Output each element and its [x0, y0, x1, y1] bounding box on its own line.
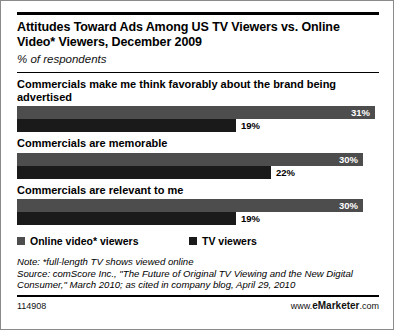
bar-value-label: 19% [236, 213, 260, 224]
legend-swatch-icon [17, 237, 25, 245]
legend-item-tv-viewers: TV viewers [189, 235, 257, 247]
bar-group-bars: 30% 19% [17, 199, 379, 225]
header-bottom-rule [17, 72, 379, 73]
page-title: Attitudes Toward Ads Among US TV Viewers… [17, 20, 379, 50]
bar-value-label: 30% [339, 154, 363, 165]
legend-swatch-icon [189, 237, 197, 245]
brand-prefix: www. [291, 301, 313, 311]
bar-group-label: Commercials make me think favorably abou… [17, 78, 379, 103]
bar-group-label: Commercials are memorable [17, 137, 379, 150]
bar-row: 19% [17, 212, 379, 225]
footer-rule [17, 295, 379, 297]
chart-subtitle: % of respondents [17, 52, 379, 66]
chart-source: Source: comScore Inc., "The Future of Or… [17, 268, 379, 291]
chart-legend: Online video* viewers TV viewers [17, 235, 379, 247]
bar-group-bars: 30% 22% [17, 153, 379, 179]
bar-row: 22% [17, 166, 379, 179]
emarketer-brand: www.eMarketer.com [291, 300, 379, 311]
bar-row: 19% [17, 119, 379, 132]
chart-id: 114908 [17, 301, 46, 311]
bar-tv-viewers [17, 212, 236, 225]
bar-value-label: 31% [351, 107, 375, 118]
chart-footer: 114908 www.eMarketer.com [17, 300, 379, 311]
bar-tv-viewers [17, 166, 271, 179]
bar-row: 31% [17, 106, 379, 119]
bar-group: Commercials make me think favorably abou… [17, 78, 379, 132]
bar-group: Commercials are memorable 30% 22% [17, 137, 379, 179]
bar-online-video: 30% [17, 153, 363, 166]
bar-value-label: 22% [271, 167, 295, 178]
emarketer-chart-figure: Attitudes Toward Ads Among US TV Viewers… [0, 0, 394, 330]
legend-label: Online video* viewers [30, 235, 139, 247]
bar-online-video: 30% [17, 199, 363, 212]
bar-tv-viewers [17, 119, 236, 132]
brand-name: eMarketer [312, 300, 359, 311]
bar-row: 30% [17, 153, 379, 166]
legend-label: TV viewers [202, 235, 257, 247]
bar-value-label: 30% [339, 200, 363, 211]
bar-group-bars: 31% 19% [17, 106, 379, 132]
header-top-rule [17, 12, 379, 15]
bar-row: 30% [17, 199, 379, 212]
legend-item-online-video: Online video* viewers [17, 235, 189, 247]
bar-value-label: 19% [236, 120, 260, 131]
bar-group: Commercials are relevant to me 30% 19% [17, 184, 379, 226]
chart-note: Note: *full-length TV shows viewed onlin… [17, 256, 379, 268]
bar-online-video: 31% [17, 106, 375, 119]
chart-inner: Attitudes Toward Ads Among US TV Viewers… [17, 1, 379, 330]
brand-suffix: .com [359, 301, 379, 311]
bar-group-label: Commercials are relevant to me [17, 184, 379, 197]
